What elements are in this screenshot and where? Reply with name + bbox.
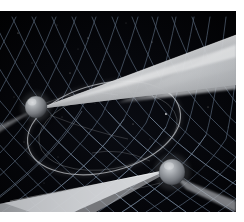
- illustration-canvas: [0, 11, 236, 212]
- neutron-star-upper-left: [21, 92, 51, 122]
- binary-pulsar-illustration: [0, 11, 236, 212]
- illustration-page: Binary pulsar system warping spacetime T…: [0, 0, 244, 222]
- neutron-star-lower-right: [154, 154, 190, 190]
